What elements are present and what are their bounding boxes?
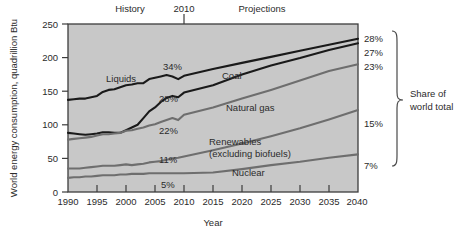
inner-pct-liquids: 34% (163, 61, 183, 72)
x-tick-label-2000: 2000 (115, 196, 136, 207)
x-tick-label-2035: 2035 (318, 196, 339, 207)
x-tick-label-2005: 2005 (144, 196, 165, 207)
x-tick-label-1990: 1990 (57, 196, 78, 207)
end-pct-natural-gas: 23% (364, 61, 384, 72)
x-tick-label-2020: 2020 (231, 196, 252, 207)
end-pct-renewables: 15% (364, 118, 384, 129)
y-tick-label-50: 50 (47, 153, 58, 164)
series-label-renewables-line2: (excluding biofuels) (209, 148, 291, 159)
x-tick-label-2015: 2015 (202, 196, 223, 207)
x-tick-label-2010: 2010 (173, 196, 194, 207)
y-tick-label-150: 150 (42, 86, 58, 97)
share-brace-label-line2: world total (409, 101, 453, 112)
projections-label: Projections (239, 3, 286, 14)
series-label-natural-gas: Natural gas (226, 102, 275, 113)
y-axis-ticks (62, 24, 68, 192)
series-label-nuclear: Nuclear (232, 167, 265, 178)
share-brace-label-line1: Share of (410, 88, 446, 99)
x-axis-title: Year (203, 217, 222, 228)
y-axis-tick-labels: 0 50 100 150 200 250 (42, 19, 58, 198)
x-tick-label-2025: 2025 (260, 196, 281, 207)
inner-pct-natural-gas: 22% (159, 125, 179, 136)
history-label: History (115, 3, 145, 14)
y-tick-label-250: 250 (42, 19, 58, 30)
y-tick-label-200: 200 (42, 52, 58, 63)
x-tick-label-2040: 2040 (346, 196, 367, 207)
end-pct-nuclear: 7% (364, 160, 378, 171)
share-brace (392, 31, 403, 166)
divider-year-label: 2010 (173, 3, 194, 14)
y-tick-label-100: 100 (42, 119, 58, 130)
end-pct-coal: 27% (364, 47, 384, 58)
chart-figure: 0 50 100 150 200 250 World energy consum… (0, 0, 470, 241)
y-axis-title: World energy consumption, quadrillion Bt… (8, 19, 19, 197)
inner-pct-nuclear: 5% (161, 179, 175, 190)
series-label-coal: Coal (222, 70, 242, 81)
end-pct-liquids: 28% (364, 33, 384, 44)
world-energy-consumption-chart: 0 50 100 150 200 250 World energy consum… (0, 0, 470, 241)
x-tick-label-1995: 1995 (86, 196, 107, 207)
series-label-renewables-line1: Renewables (209, 136, 262, 147)
inner-pct-renewables: 11% (159, 154, 178, 165)
series-label-liquids: Liquids (106, 73, 136, 84)
x-axis-tick-labels: 1990 1995 2000 2005 2010 2015 2020 2025 … (57, 196, 367, 207)
x-tick-label-2030: 2030 (289, 196, 310, 207)
inner-pct-coal: 28% (159, 93, 179, 104)
